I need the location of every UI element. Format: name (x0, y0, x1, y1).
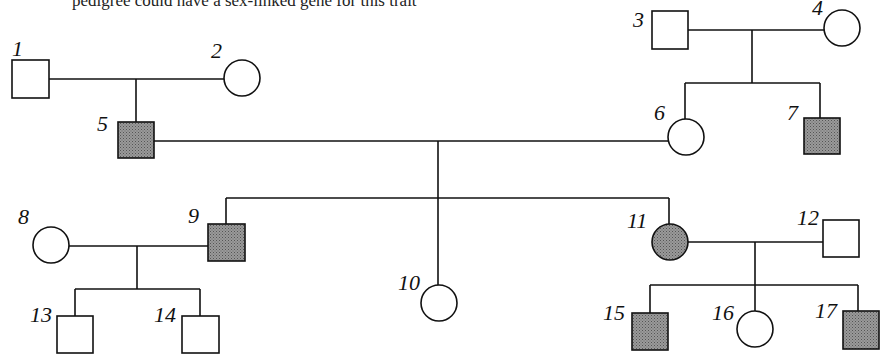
individual-6-female (668, 119, 704, 155)
label-11: 11 (627, 208, 647, 233)
label-5: 5 (97, 111, 108, 136)
label-10: 10 (398, 270, 420, 295)
label-6: 6 (654, 100, 665, 125)
individual-10-female (421, 285, 457, 321)
label-2: 2 (211, 38, 222, 63)
individual-5-male-affected (118, 122, 154, 158)
individual-11-female-affected (652, 224, 688, 260)
individual-3-male (652, 11, 688, 49)
label-14: 14 (154, 302, 176, 327)
label-16: 16 (712, 300, 734, 325)
label-15: 15 (603, 300, 625, 325)
label-8: 8 (18, 204, 29, 229)
individual-17-male-affected (843, 311, 879, 349)
individual-12-male (823, 220, 859, 257)
label-3: 3 (632, 7, 644, 32)
individual-1-male (12, 60, 49, 98)
label-1: 1 (12, 36, 23, 61)
individual-2-female (224, 60, 260, 96)
label-9: 9 (188, 203, 199, 228)
pedigree-chart: 1 2 3 4 5 6 7 8 9 10 11 12 13 14 15 16 1… (0, 0, 882, 360)
label-12: 12 (797, 205, 819, 230)
label-4: 4 (812, 0, 823, 20)
label-13: 13 (30, 302, 52, 327)
pedigree-lines (49, 30, 858, 316)
individual-7-male-affected (804, 118, 840, 154)
label-17: 17 (815, 298, 838, 323)
individual-4-female (824, 10, 860, 46)
individual-15-male-affected (632, 313, 668, 350)
individual-16-female (737, 311, 773, 347)
individual-14-male (182, 316, 219, 353)
individual-8-female (33, 227, 69, 263)
individual-9-male-affected (208, 224, 245, 261)
label-7: 7 (787, 100, 799, 125)
individual-13-male (57, 316, 93, 353)
